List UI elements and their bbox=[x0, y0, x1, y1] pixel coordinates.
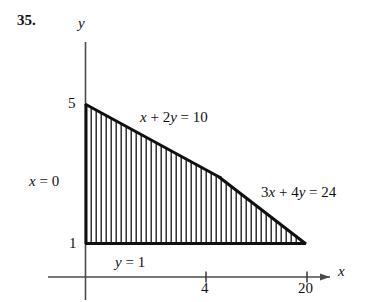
y-tick-label-5: 5 bbox=[68, 96, 76, 111]
x-axis-label: x bbox=[338, 264, 345, 279]
label-y-equals-1: y = 1 bbox=[115, 255, 145, 270]
x-tick-label-20: 20 bbox=[298, 281, 313, 296]
x-axis-arrowhead bbox=[320, 273, 330, 280]
y-tick-label-1: 1 bbox=[69, 236, 77, 251]
feasible-region bbox=[86, 104, 305, 244]
exercise-number: 35. bbox=[17, 13, 36, 28]
x-tick-label-4: 4 bbox=[201, 281, 209, 296]
label-3x-plus-4y-equals-24: 3x + 4y = 24 bbox=[261, 185, 336, 200]
linear-programming-figure bbox=[0, 0, 374, 302]
label-x-equals-0: x = 0 bbox=[29, 174, 59, 189]
y-axis-label: y bbox=[78, 16, 85, 31]
label-x-plus-2y-equals-10: x + 2y = 10 bbox=[140, 110, 208, 125]
figure-page: 35. y x 5 1 4 20 x + 2y = 10 3x + 4y = 2… bbox=[0, 0, 374, 302]
